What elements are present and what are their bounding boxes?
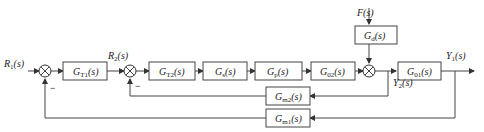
block-diagram: − − GT1(s) GT2(s) Gs(s) Gp(s) G02(s) Gd(… bbox=[0, 0, 484, 132]
minus-sign-1: − bbox=[50, 83, 55, 93]
signal-r2: R2(s) bbox=[107, 50, 129, 63]
signal-r1: R1(s) bbox=[3, 58, 25, 71]
signal-f: F(s) bbox=[356, 7, 374, 19]
summing-junction-1 bbox=[39, 65, 51, 77]
minus-sign-2: − bbox=[135, 81, 140, 91]
summing-junction-2 bbox=[124, 65, 136, 77]
block-gm2: Gm2(s) bbox=[266, 87, 310, 105]
signal-y1: Y1(s) bbox=[446, 50, 466, 63]
block-gm1: Gm1(s) bbox=[266, 109, 310, 127]
block-gt2: GT2(s) bbox=[149, 62, 195, 80]
block-gt1: GT1(s) bbox=[63, 62, 107, 80]
signal-y2: Y2(s) bbox=[393, 77, 413, 90]
summing-junction-3 bbox=[363, 65, 375, 77]
block-gp: Gp(s) bbox=[255, 62, 302, 80]
block-g02: G02(s) bbox=[311, 62, 355, 80]
block-gs: Gs(s) bbox=[203, 62, 247, 80]
block-gd: Gd(s) bbox=[355, 26, 397, 44]
